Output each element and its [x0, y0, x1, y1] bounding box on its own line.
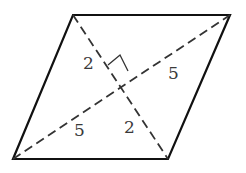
- label-short-diagonal-upper: 2: [83, 53, 94, 73]
- label-short-diagonal-lower: 2: [124, 117, 135, 137]
- label-long-diagonal-left: 5: [74, 120, 85, 140]
- label-long-diagonal-right: 5: [168, 63, 179, 83]
- short-diagonal: [73, 15, 168, 159]
- right-angle-marker: [108, 55, 128, 71]
- rhombus-diagram: 2 5 5 2: [0, 0, 246, 173]
